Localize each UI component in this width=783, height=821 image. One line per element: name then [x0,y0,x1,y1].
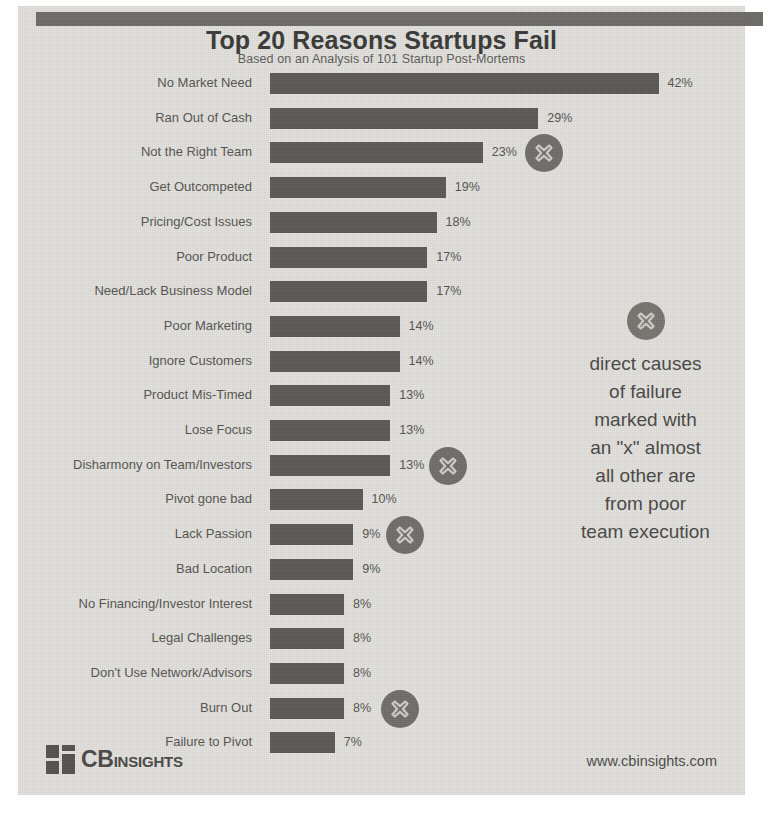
category-label: Pricing/Cost Issues [18,211,252,233]
category-label: Lack Passion [18,523,252,545]
bar [270,142,483,163]
annotation-line: marked with [546,406,745,434]
x-circle-icon [627,302,665,340]
category-label: Get Outcompeted [18,176,252,198]
bar [270,212,437,233]
bar-value-label: 23% [492,141,517,163]
bar-value-label: 13% [399,419,424,441]
bar [270,524,353,545]
direct-cause-x-icon [525,134,563,172]
bar-value-label: 17% [436,280,461,302]
bar-value-label: 10% [372,488,397,510]
chart-row: No Financing/Investor Interest8% [18,593,745,625]
bar [270,489,363,510]
page-title: Top 20 Reasons Startups Fail [18,26,745,55]
direct-cause-x-icon [429,447,467,485]
category-label: No Financing/Investor Interest [18,593,252,615]
bar-value-label: 8% [353,697,371,719]
category-label: Need/Lack Business Model [18,280,252,302]
bar [270,455,390,476]
category-label: Ignore Customers [18,350,252,372]
bar-value-label: 14% [409,350,434,372]
cb-logo-mark-icon [46,745,75,774]
bar-value-label: 42% [668,72,693,94]
chart-row: Poor Product17% [18,246,745,278]
bar-value-label: 18% [446,211,471,233]
website-url[interactable]: www.cbinsights.com [586,753,717,769]
bar [270,663,344,684]
chart-page: Top 20 Reasons Startups Fail Based on an… [0,0,783,821]
chart-footer: CBINSIGHTS www.cbinsights.com [18,733,745,795]
category-label: Legal Challenges [18,627,252,649]
chart-row: Ran Out of Cash29% [18,107,745,139]
bar [270,628,344,649]
direct-cause-x-icon [386,516,424,554]
chart-row: No Market Need42% [18,72,745,104]
bar-value-label: 9% [362,558,380,580]
bar [270,177,446,198]
category-label: Burn Out [18,697,252,719]
direct-cause-x-icon [381,690,419,728]
category-label: Don't Use Network/Advisors [18,662,252,684]
category-label: Lose Focus [18,419,252,441]
chart-row: Get Outcompeted19% [18,176,745,208]
bar [270,385,390,406]
annotation-line: an "x" almost [546,434,745,462]
logo-secondary-text: INSIGHTS [114,753,183,770]
category-label: No Market Need [18,72,252,94]
bar-value-label: 13% [399,384,424,406]
bar-value-label: 8% [353,627,371,649]
chart-row: Burn Out8% [18,697,745,729]
bar [270,420,390,441]
top-banner-bar [36,12,763,26]
annotation-line: all other are [546,462,745,490]
bar [270,247,427,268]
category-label: Pivot gone bad [18,488,252,510]
annotation-text: direct causesof failuremarked withan "x"… [546,350,745,546]
page-subtitle: Based on an Analysis of 101 Startup Post… [18,52,745,66]
logo-primary-text: CB [81,746,114,772]
bar-value-label: 29% [547,107,572,129]
category-label: Bad Location [18,558,252,580]
bar-value-label: 14% [409,315,434,337]
annotation-line: direct causes [546,350,745,378]
bar [270,108,538,129]
annotation-block: direct causesof failuremarked withan "x"… [546,302,745,546]
bar-value-label: 13% [399,454,424,476]
bar-value-label: 8% [353,593,371,615]
category-label: Product Mis-Timed [18,384,252,406]
annotation-line: of failure [546,378,745,406]
chart-row: Bad Location9% [18,558,745,590]
bar [270,316,400,337]
bar [270,281,427,302]
category-label: Not the Right Team [18,141,252,163]
bar [270,594,344,615]
annotation-line: team execution [546,518,745,546]
bar [270,698,344,719]
chart-row: Pricing/Cost Issues18% [18,211,745,243]
chart-row: Not the Right Team23% [18,141,745,173]
bar-value-label: 8% [353,662,371,684]
chart-sheet: Top 20 Reasons Startups Fail Based on an… [18,6,745,795]
category-label: Disharmony on Team/Investors [18,454,252,476]
cb-insights-wordmark: CBINSIGHTS [81,748,183,771]
bar [270,559,353,580]
bar-value-label: 17% [436,246,461,268]
category-label: Poor Product [18,246,252,268]
bar-value-label: 19% [455,176,480,198]
category-label: Poor Marketing [18,315,252,337]
cb-insights-logo: CBINSIGHTS [46,745,183,774]
chart-row: Legal Challenges8% [18,627,745,659]
bar [270,351,400,372]
category-label: Ran Out of Cash [18,107,252,129]
bar [270,73,659,94]
annotation-line: from poor [546,490,745,518]
bar-value-label: 9% [362,523,380,545]
